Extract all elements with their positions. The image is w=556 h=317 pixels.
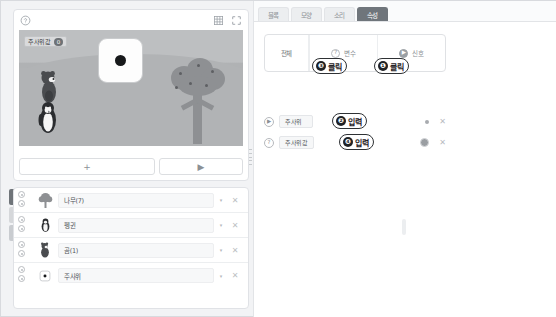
category-all-label: 전체 <box>281 48 292 58</box>
object-toggles <box>18 216 25 232</box>
panel-tabs: 블록 모양 소리 속성 <box>254 5 388 21</box>
close-icon[interactable]: ✕ <box>228 221 242 230</box>
tab-properties-label: 속성 <box>367 10 378 20</box>
object-list: 나무(7) ▾ ✕ 펭귄 ▾ <box>13 187 249 309</box>
lock-toggle-icon[interactable] <box>18 250 25 257</box>
signal-badge-icon: ▶ <box>399 49 408 58</box>
callout-step-1-number: ❶ <box>378 61 388 71</box>
close-icon[interactable]: ✕ <box>439 139 446 147</box>
category-variable-label: 변수 <box>344 48 355 58</box>
signal-name-field[interactable]: 주사위 <box>279 115 313 128</box>
lock-toggle-icon[interactable] <box>18 200 25 207</box>
callout-step-2-text: 입력 <box>348 116 361 127</box>
table-row[interactable]: 주사위 ▾ ✕ <box>14 263 248 288</box>
callout-step-3-text: 클릭 <box>328 61 341 72</box>
variable-icon: ? <box>264 138 274 148</box>
visibility-toggle-icon[interactable] <box>18 266 25 273</box>
variable-name-field[interactable]: 주사위값 <box>279 136 314 149</box>
add-object-label: + <box>83 162 91 172</box>
callout-step-1-text: 클릭 <box>390 61 403 72</box>
object-toggles <box>18 191 25 207</box>
close-icon[interactable]: ✕ <box>228 196 242 205</box>
penguin-sprite[interactable] <box>37 100 59 134</box>
visibility-toggle-icon[interactable] <box>18 216 25 223</box>
object-name-field[interactable]: 나무(7) <box>58 193 214 208</box>
tree-thumb-icon <box>36 190 54 210</box>
callout-step-1: ❶ 클릭 <box>374 58 409 74</box>
lock-toggle-icon[interactable] <box>18 225 25 232</box>
chevron-down-icon[interactable]: ▾ <box>214 247 228 253</box>
tab-sounds[interactable]: 소리 <box>324 7 355 21</box>
chevron-down-icon[interactable]: ▾ <box>214 222 228 228</box>
grid-icon[interactable] <box>213 15 224 26</box>
category-all[interactable]: 전체 <box>265 35 309 71</box>
variable-row-controls: ✕ <box>420 138 446 147</box>
stage-action-buttons: + ▶ <box>19 158 243 175</box>
chevron-down-icon[interactable]: ▾ <box>214 197 228 203</box>
object-name-field[interactable]: 펭귄 <box>58 218 214 233</box>
tab-sounds-label: 소리 <box>334 10 345 20</box>
bear-sprite[interactable] <box>37 70 61 104</box>
visibility-toggle-icon[interactable] <box>420 138 429 147</box>
visibility-toggle-icon[interactable] <box>18 241 25 248</box>
tree-sprite[interactable] <box>169 58 227 144</box>
callout-step-4: ❹ 입력 <box>339 134 374 150</box>
stage-panel: 주사위값 0 <box>13 9 249 181</box>
tab-blocks[interactable]: 블록 <box>258 7 289 21</box>
chevron-down-icon[interactable]: ▾ <box>214 273 228 279</box>
dice-thumb-icon <box>36 266 54 286</box>
add-object-button[interactable]: + <box>19 158 155 175</box>
start-button[interactable]: ▶ <box>159 158 243 175</box>
callout-step-3-number: ❸ <box>316 61 326 71</box>
category-signal-label: 신호 <box>412 48 423 58</box>
close-icon[interactable]: ✕ <box>228 246 242 255</box>
object-name-field[interactable]: 주사위 <box>58 268 214 283</box>
table-row[interactable]: 곰(1) ▾ ✕ <box>14 238 248 263</box>
close-icon[interactable]: ✕ <box>228 271 242 280</box>
tab-properties[interactable]: 속성 <box>357 7 388 21</box>
page-artifact <box>402 219 406 235</box>
signal-row-controls: ✕ <box>425 118 446 126</box>
visibility-toggle-icon[interactable] <box>18 191 25 198</box>
variable-badge-icon: ? <box>331 49 340 58</box>
callout-step-3: ❸ 클릭 <box>312 58 347 74</box>
bear-thumb-icon <box>36 240 54 260</box>
left-column: 주사위값 0 <box>9 7 253 309</box>
stage-toolbar <box>14 10 248 30</box>
object-name-field[interactable]: 곰(1) <box>58 243 214 258</box>
entry-editor-window: 주사위값 0 <box>0 0 556 317</box>
panel-splitter[interactable] <box>249 149 252 165</box>
tab-shapes-label: 모양 <box>301 10 312 20</box>
stage-variable-monitor[interactable]: 주사위값 0 <box>24 36 67 47</box>
callout-step-2-number: ❷ <box>336 116 346 126</box>
tab-blocks-label: 블록 <box>268 10 279 20</box>
callout-step-4-text: 입력 <box>355 137 368 148</box>
penguin-thumb-icon <box>36 215 54 235</box>
callout-step-4-number: ❹ <box>343 137 353 147</box>
object-toggles <box>18 241 25 257</box>
variable-monitor-name: 주사위값 <box>28 37 51 46</box>
callout-step-2: ❷ 입력 <box>332 113 367 129</box>
table-row[interactable]: 나무(7) ▾ ✕ <box>14 188 248 213</box>
property-category-header: 전체 ? 변수 ▶ 신호 <box>264 34 446 72</box>
right-panel: 블록 모양 소리 속성 전체 ? 변수 <box>253 1 556 317</box>
lock-toggle-icon[interactable] <box>18 275 25 282</box>
question-circle-icon[interactable] <box>20 15 31 26</box>
variable-monitor-value: 0 <box>54 38 64 46</box>
stage-canvas[interactable]: 주사위값 0 <box>19 30 243 146</box>
signal-icon: ▶ <box>264 117 274 127</box>
table-row[interactable]: 펭귄 ▾ ✕ <box>14 213 248 238</box>
visibility-toggle-icon[interactable] <box>425 120 429 124</box>
object-toggles <box>18 266 25 282</box>
properties-panel-body: 전체 ? 변수 ▶ 신호 ❸ 클릭 ❶ 클릭 <box>254 21 556 317</box>
fullscreen-icon[interactable] <box>231 15 242 26</box>
start-button-label: ▶ <box>198 162 205 172</box>
tab-shapes[interactable]: 모양 <box>291 7 322 21</box>
stage-view-controls <box>213 15 242 26</box>
dice-pip <box>115 55 126 66</box>
dice-sprite[interactable] <box>98 38 143 83</box>
close-icon[interactable]: ✕ <box>439 118 446 126</box>
